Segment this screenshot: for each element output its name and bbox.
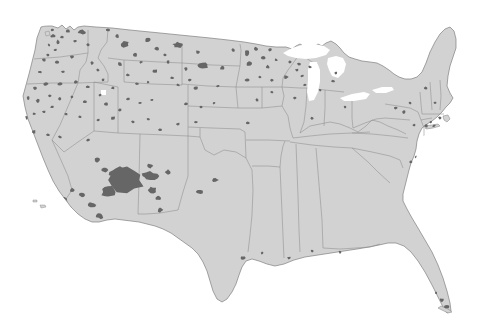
puget-sound-islands xyxy=(45,31,50,36)
us-map-canvas xyxy=(0,0,492,334)
channel-island-small xyxy=(33,200,37,202)
highlight-patch xyxy=(111,116,115,119)
great-salt-lake xyxy=(101,90,106,95)
us-map-figure xyxy=(0,0,492,334)
highlight-patch xyxy=(444,305,449,308)
